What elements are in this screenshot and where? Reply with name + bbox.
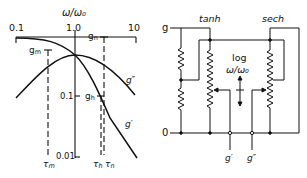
y-tick-label-0.01: 0.01 [56, 151, 75, 161]
figure: ω/ω₀ 0.1 1.0 10 0.1 0.01 gm gn gh g″ g′ … [0, 0, 307, 178]
g-n-label: gn [88, 31, 98, 42]
g-double-prime-output-label: g″ [247, 153, 257, 163]
up-arrow-icon [238, 76, 242, 80]
g-prime-label: g′ [125, 119, 133, 129]
center-label-log: log [232, 52, 246, 63]
tanh-potentiometer [207, 50, 213, 108]
g-prime-terminal [228, 131, 231, 134]
bottom-rail-label: 0 [162, 127, 168, 138]
x-tick-label-1.0: 1.0 [66, 22, 81, 33]
left-resistor-lower [178, 88, 184, 110]
g-double-prime-label: g″ [126, 75, 136, 85]
tau-m-label: τm [43, 159, 55, 170]
tanh-wiper-arrow [214, 88, 218, 92]
tau-n-label: τn [105, 159, 115, 170]
sech-potentiometer [267, 50, 273, 108]
g-double-prime-terminal [250, 131, 253, 134]
x-axis-title: ω/ω₀ [62, 7, 86, 18]
y-tick-label-0.1: 0.1 [60, 91, 74, 101]
left-resistor-upper [178, 48, 184, 70]
center-label-omega: ω/ω₀ [226, 64, 249, 75]
g-m-label: gm [29, 45, 41, 56]
g-prime-output-label: g′ [225, 153, 233, 163]
right-circuit [170, 28, 299, 150]
tau-h-label: τh [93, 159, 103, 170]
x-tick-label-10: 10 [128, 22, 140, 33]
sech-label: sech [262, 13, 284, 24]
g-h-label: gh [85, 91, 95, 102]
sech-wiper-arrow [262, 88, 266, 92]
top-rail-label: g [162, 22, 168, 33]
x-tick-label-0.1: 0.1 [9, 22, 24, 33]
g-prime-curve [16, 38, 137, 158]
tanh-label: tanh [199, 13, 221, 24]
down-arrow-icon [238, 102, 242, 106]
